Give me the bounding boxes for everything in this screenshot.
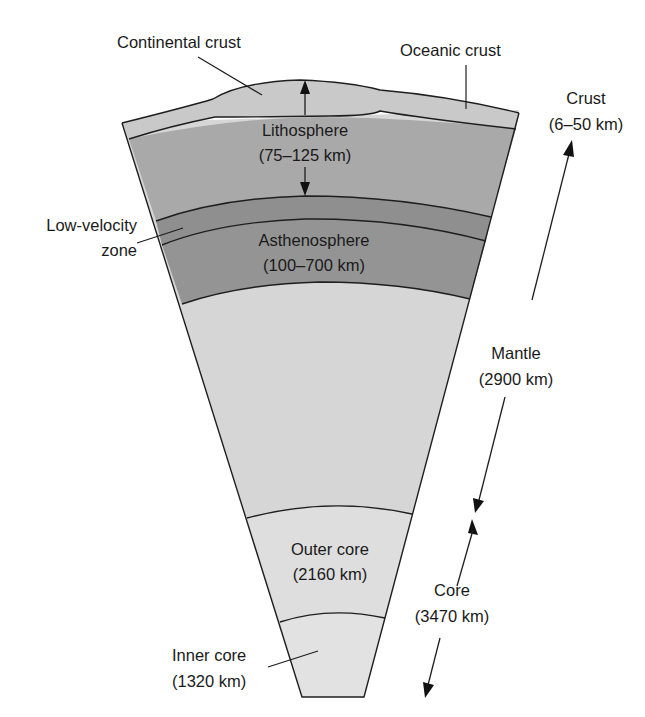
low-velocity-label-line1: Low-velocity <box>46 216 138 234</box>
crust-label: Crust <box>566 89 606 107</box>
inner-core-layer <box>280 613 385 697</box>
core-arrowhead-up-icon <box>468 519 478 535</box>
outer-core-range: (2160 km) <box>293 565 367 583</box>
mantle-arrow-lower <box>478 397 505 504</box>
crust-range: (6–50 km) <box>549 115 623 133</box>
inner-core-label: Inner core <box>172 646 246 664</box>
outer-core-layer <box>247 506 412 622</box>
core-arrowhead-down-icon <box>423 682 434 698</box>
inner-core-range: (1320 km) <box>172 672 246 690</box>
mantle-label: Mantle <box>491 344 541 362</box>
core-arrow-upper <box>457 530 473 586</box>
crust-arrowhead-icon <box>563 140 574 157</box>
asthenosphere-label: Asthenosphere <box>259 231 370 249</box>
core-arrow-lower <box>428 638 440 685</box>
oceanic-crust-label: Oceanic crust <box>400 41 501 59</box>
core-range: (3470 km) <box>415 607 489 625</box>
low-velocity-label-line2: zone <box>101 241 137 259</box>
earth-layers-diagram: Continental crust Oceanic crust Lithosph… <box>0 0 645 717</box>
mantle-range: (2900 km) <box>479 370 553 388</box>
continental-crust-leader <box>198 57 262 95</box>
continental-crust-label: Continental crust <box>117 33 241 51</box>
lithosphere-range: (75–125 km) <box>259 146 352 164</box>
mantle-arrowhead-down-icon <box>473 498 484 513</box>
lithosphere-label: Lithosphere <box>262 121 348 139</box>
outer-core-label: Outer core <box>291 540 369 558</box>
core-label: Core <box>434 581 470 599</box>
mantle-arrow-upper <box>532 150 570 300</box>
asthenosphere-range: (100–700 km) <box>263 256 365 274</box>
